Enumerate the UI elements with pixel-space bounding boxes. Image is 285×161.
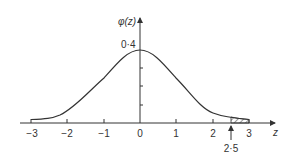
svg-text:−2: −2 [61,128,73,139]
x-tick-labels: −3 −2 −1 0 1 2 3 [26,128,252,139]
y-axis-label: φ(z) [118,16,136,27]
x-axis-label: z [272,127,278,138]
svg-text:−3: −3 [26,128,38,139]
svg-text:2: 2 [210,128,216,139]
normal-curve-chart: −3 −2 −1 0 1 2 3 z φ(z) 0·4 2·5 [0,0,285,161]
peak-label: 0·4 [121,39,136,50]
marker-label: 2·5 [224,143,239,154]
svg-text:0: 0 [137,128,143,139]
svg-text:−1: −1 [98,128,110,139]
svg-text:3: 3 [246,128,252,139]
svg-text:1: 1 [173,128,179,139]
